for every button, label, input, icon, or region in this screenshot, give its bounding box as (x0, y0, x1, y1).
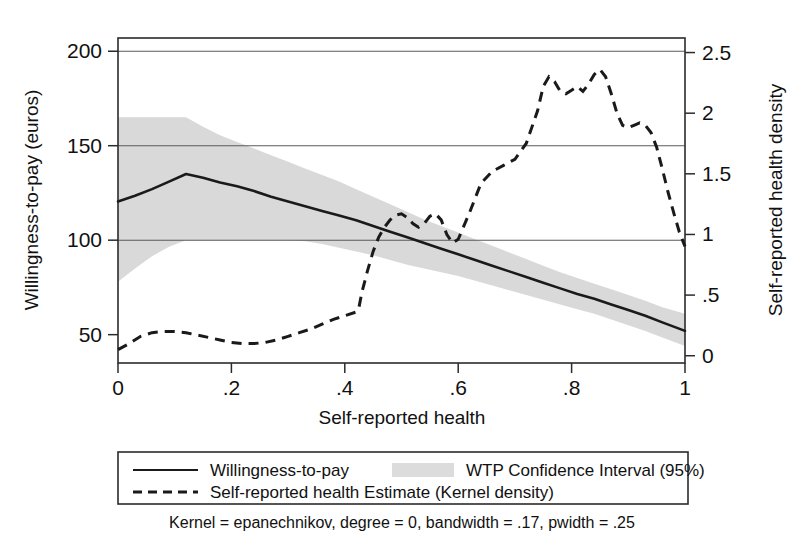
legend-label-wtp: Willingness-to-pay (210, 461, 349, 480)
y-axis-tick-label: 50 (79, 323, 102, 346)
legend-label-density: Self-reported health Estimate (Kernel de… (210, 483, 554, 502)
y2-axis-tick-label: 2.5 (702, 41, 731, 64)
x-axis-title: Self-reported health (319, 407, 486, 428)
x-axis-tick-label: 1 (679, 376, 691, 399)
y2-axis-tick-label: 0 (702, 344, 714, 367)
x-axis-tick-label: .2 (223, 376, 241, 399)
y2-axis-tick-label: 1.5 (702, 162, 731, 185)
figure-container: 50100150200 0.511.522.5 0.2.4.6.81 Willi… (0, 0, 810, 551)
chart-legend: Willingness-to-pay WTP Confidence Interv… (118, 452, 705, 504)
x-axis: 0.2.4.6.81 (112, 363, 691, 399)
y2-axis-title: Self-reported health density (765, 83, 786, 316)
x-axis-tick-label: .4 (336, 376, 354, 399)
wtp-health-chart: 50100150200 0.511.522.5 0.2.4.6.81 Willi… (0, 0, 810, 551)
y-axis-tick-label: 100 (67, 228, 102, 251)
x-axis-tick-label: .8 (563, 376, 581, 399)
right-y-axis: 0.511.522.5 (685, 41, 731, 367)
x-axis-tick-label: 0 (112, 376, 124, 399)
y-axis-title: Willingness-to-pay (euros) (21, 90, 42, 311)
y2-axis-tick-label: 1 (702, 222, 714, 245)
legend-label-ci: WTP Confidence Interval (95%) (466, 461, 705, 480)
wtp-confidence-interval-band (118, 117, 685, 346)
y-axis-tick-label: 200 (67, 39, 102, 62)
y2-axis-tick-label: 2 (702, 101, 714, 124)
left-y-axis: 50100150200 (67, 39, 118, 345)
y2-axis-tick-label: .5 (702, 283, 720, 306)
x-axis-tick-label: .6 (449, 376, 467, 399)
y-axis-tick-label: 150 (67, 134, 102, 157)
legend-band-swatch-icon (392, 463, 454, 477)
chart-footnote: Kernel = epanechnikov, degree = 0, bandw… (169, 514, 635, 531)
